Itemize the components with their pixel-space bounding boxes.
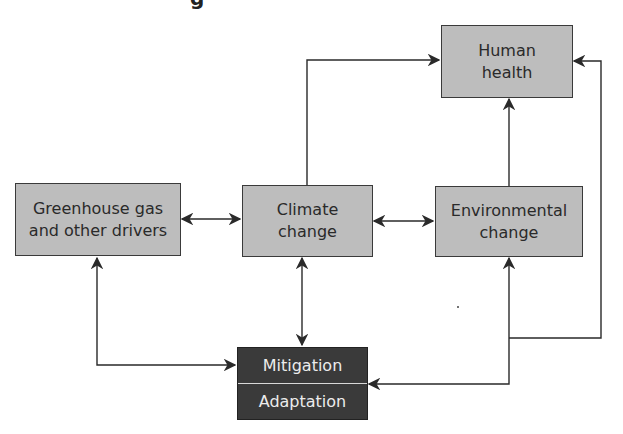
- node-climate-change: Climate change: [242, 185, 373, 257]
- adaptation-label: Adaptation: [259, 392, 347, 411]
- mitigation-section: Mitigation: [238, 348, 367, 384]
- adaptation-section: Adaptation: [238, 384, 367, 420]
- node-label: Greenhouse gas and other drivers: [29, 198, 167, 242]
- edge-loop-response: [369, 338, 509, 384]
- edge-climate-health: [307, 60, 439, 185]
- node-human-health: Human health: [441, 25, 573, 98]
- node-label: Human health: [478, 40, 536, 84]
- node-environmental-change: Environmental change: [435, 186, 583, 257]
- node-greenhouse-gas: Greenhouse gas and other drivers: [15, 183, 181, 256]
- node-mitigation-adaptation: Mitigation Adaptation: [237, 347, 368, 420]
- node-label: Environmental change: [451, 200, 567, 244]
- edge-greenhouse-response: [97, 258, 235, 365]
- node-label: Climate change: [277, 199, 339, 243]
- mitigation-label: Mitigation: [263, 356, 343, 375]
